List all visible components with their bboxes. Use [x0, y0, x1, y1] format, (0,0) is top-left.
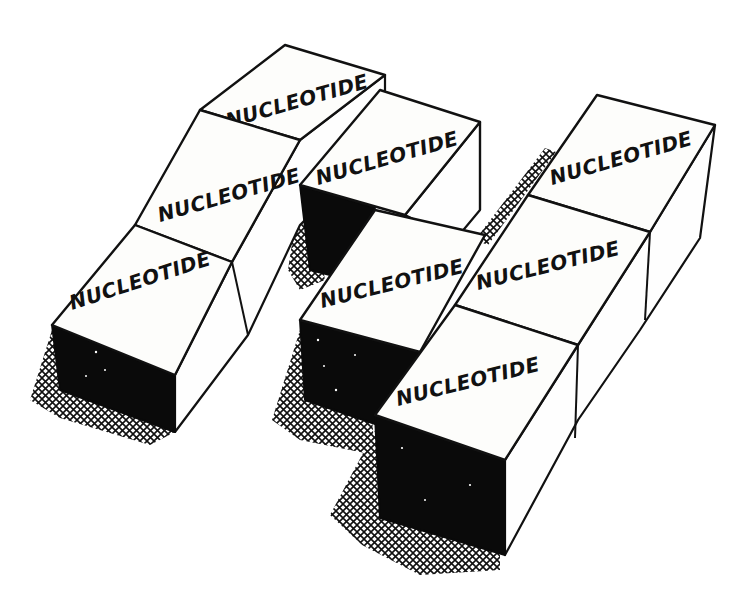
- nucleotide-boxes-illustration: NUCLEOTIDE NUCLEOTIDE NUCLEOTIDE NUCLEOT…: [0, 0, 743, 612]
